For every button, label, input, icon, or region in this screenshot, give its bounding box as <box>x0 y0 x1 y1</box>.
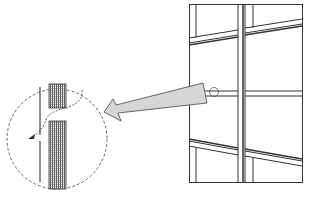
detail-callout-circle <box>210 88 219 97</box>
mullion-joint-detail <box>7 84 107 189</box>
curtain-wall-frame <box>189 4 303 183</box>
magnify-arrow <box>104 83 207 121</box>
diagram-canvas <box>0 0 309 198</box>
